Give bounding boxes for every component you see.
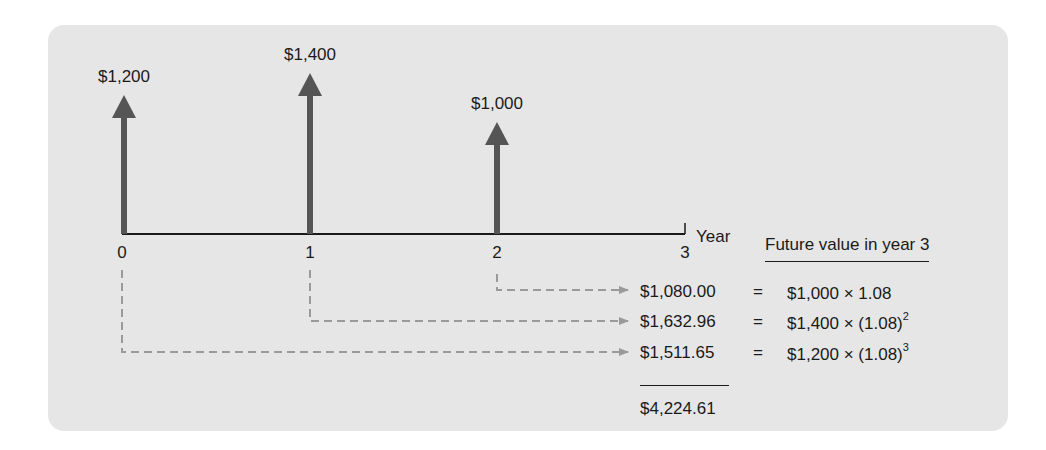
- tick-label-3: 3: [680, 244, 689, 261]
- cash-flow-amount-year-0: $1,200: [98, 68, 150, 85]
- future-value-formula: $1,400 × (1.08)2: [787, 312, 909, 334]
- future-value: $1,632.96: [640, 312, 716, 332]
- future-value-header: Future value in year 3: [765, 235, 929, 262]
- axis-label-year: Year: [696, 228, 730, 245]
- formula-exponent: 3: [903, 341, 909, 353]
- cash-flow-amount-year-1: $1,400: [284, 46, 336, 63]
- equals-sign: =: [753, 312, 763, 332]
- future-value: $1,080.00: [640, 282, 716, 302]
- formula-base: $1,400 × (1.08): [787, 314, 903, 333]
- future-value-total: $4,224.61: [640, 399, 716, 419]
- tick-label-2: 2: [492, 244, 501, 261]
- dashed-line-year-2: [497, 274, 628, 290]
- formula-exponent: 2: [903, 310, 909, 322]
- sum-rule: [640, 385, 729, 386]
- dashed-line-year-1: [310, 270, 628, 321]
- time-axis: [122, 220, 685, 234]
- formula-base: $1,200 × (1.08): [787, 345, 903, 364]
- future-value-formula: $1,200 × (1.08)3: [787, 343, 909, 365]
- equals-sign: =: [753, 282, 763, 302]
- future-value-formula: $1,000 × 1.08: [787, 282, 891, 304]
- formula-base: $1,000 × 1.08: [787, 284, 891, 303]
- tick-label-0: 0: [117, 244, 126, 261]
- equals-sign: =: [753, 343, 763, 363]
- future-value: $1,511.65: [640, 343, 714, 363]
- cash-flow-arrow-year-1: [298, 73, 322, 234]
- timeline-diagram: [0, 0, 1046, 450]
- cash-flow-arrow-year-2: [485, 122, 509, 234]
- dashed-line-year-0: [122, 270, 628, 352]
- cash-flow-arrow-year-0: [112, 95, 136, 234]
- tick-label-1: 1: [305, 244, 314, 261]
- cash-flow-amount-year-2: $1,000: [471, 95, 523, 112]
